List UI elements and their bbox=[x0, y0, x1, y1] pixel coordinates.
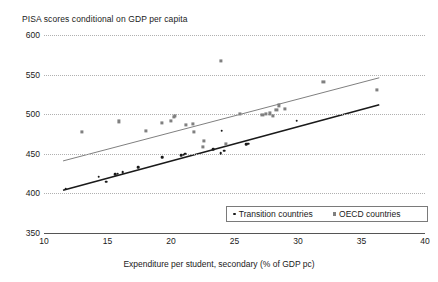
plot-area bbox=[44, 35, 425, 233]
data-point-oecd bbox=[191, 122, 194, 125]
data-point-oecd bbox=[277, 104, 280, 107]
legend-dot-marker-icon bbox=[233, 213, 236, 216]
data-point-transition bbox=[137, 166, 140, 169]
y-tick-label: 450 bbox=[26, 149, 40, 159]
y-tick-label: 400 bbox=[26, 188, 40, 198]
chart-container: PISA scores conditional on GDP per capit… bbox=[0, 0, 438, 282]
legend-label-oecd: OECD countries bbox=[339, 209, 400, 219]
x-tick-label: 10 bbox=[39, 236, 48, 246]
gridline bbox=[44, 75, 425, 76]
data-point-oecd bbox=[261, 113, 264, 116]
chart-title: PISA scores conditional on GDP per capit… bbox=[22, 14, 188, 24]
data-point-oecd bbox=[265, 113, 268, 116]
y-tick-label: 600 bbox=[26, 30, 40, 40]
data-point-oecd bbox=[117, 120, 120, 123]
data-point-oecd bbox=[202, 140, 205, 143]
legend-item-oecd: OECD countries bbox=[333, 209, 401, 219]
data-point-oecd bbox=[224, 142, 227, 145]
data-point-oecd bbox=[322, 80, 325, 83]
legend-label-transition: Transition countries bbox=[239, 209, 313, 219]
data-point-oecd bbox=[81, 130, 84, 133]
data-point-oecd bbox=[161, 121, 164, 124]
y-tick-label: 500 bbox=[26, 109, 40, 119]
data-point-transition bbox=[116, 172, 119, 175]
y-tick-label: 350 bbox=[26, 228, 40, 238]
data-point-transition bbox=[97, 175, 100, 178]
trend-lines bbox=[44, 35, 425, 233]
legend-item-transition: Transition countries bbox=[233, 209, 313, 219]
data-point-transition bbox=[247, 142, 250, 145]
data-point-oecd bbox=[375, 88, 378, 91]
trend-line-transition bbox=[63, 105, 379, 191]
chart-legend: Transition countries OECD countries bbox=[226, 206, 428, 222]
data-point-oecd bbox=[201, 145, 204, 148]
x-tick-label: 25 bbox=[230, 236, 239, 246]
data-point-transition bbox=[223, 149, 226, 152]
gridline bbox=[44, 154, 425, 155]
data-point-transition bbox=[64, 187, 67, 190]
x-tick-label: 30 bbox=[293, 236, 302, 246]
data-point-oecd bbox=[238, 113, 241, 116]
gridline bbox=[44, 193, 425, 194]
data-point-transition bbox=[221, 130, 224, 133]
data-point-oecd bbox=[144, 129, 147, 132]
x-tick-label: 15 bbox=[103, 236, 112, 246]
data-point-oecd bbox=[275, 109, 278, 112]
data-point-transition bbox=[184, 153, 187, 156]
x-axis-line bbox=[44, 233, 425, 234]
trend-line-oecd bbox=[63, 78, 379, 161]
data-point-oecd bbox=[284, 107, 287, 110]
data-point-oecd bbox=[219, 60, 222, 63]
x-axis-label: Expenditure per student, secondary (% of… bbox=[0, 259, 438, 269]
data-point-oecd bbox=[185, 124, 188, 127]
data-point-transition bbox=[212, 148, 215, 151]
data-point-oecd bbox=[173, 114, 176, 117]
data-point-oecd bbox=[192, 130, 195, 133]
gridline bbox=[44, 35, 425, 36]
data-point-transition bbox=[105, 180, 108, 183]
data-point-transition bbox=[121, 171, 124, 174]
data-point-transition bbox=[161, 156, 164, 159]
data-point-transition bbox=[219, 152, 222, 155]
x-tick-label: 40 bbox=[420, 236, 429, 246]
y-axis-ticks: 350400450500550600 bbox=[0, 0, 40, 282]
data-point-oecd bbox=[169, 119, 172, 122]
x-tick-label: 20 bbox=[166, 236, 175, 246]
data-point-oecd bbox=[271, 114, 274, 117]
data-point-transition bbox=[295, 119, 298, 122]
x-tick-label: 35 bbox=[357, 236, 366, 246]
y-tick-label: 550 bbox=[26, 70, 40, 80]
legend-square-marker-icon bbox=[333, 212, 336, 215]
gridline bbox=[44, 114, 425, 115]
